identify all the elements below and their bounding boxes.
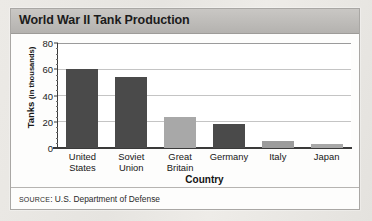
plot-area: 020406080 (58, 43, 351, 148)
page-title: World War II Tank Production (19, 13, 190, 27)
bar-slot (262, 43, 294, 148)
chart-panel: World War II Tank Production Tanks (in t… (10, 8, 360, 210)
x-axis-label-line: States (58, 162, 107, 173)
x-axis-label-line: Great (156, 151, 205, 162)
bar-germany[interactable] (213, 124, 245, 148)
bar-japan[interactable] (311, 144, 343, 148)
x-axis-label-line: Britain (156, 162, 205, 173)
source-note: SOURCE: U.S. Department of Defense (19, 194, 160, 204)
x-axis-label-japan: Japan (302, 151, 351, 162)
x-axis-label-line: Soviet (107, 151, 156, 162)
bar-slot (164, 43, 196, 148)
bar-soviet-union[interactable] (115, 77, 147, 148)
x-axis-label-line: Union (107, 162, 156, 173)
y-axis-title-unit: (in thousands) (27, 47, 36, 99)
y-tick-label-0: 0 (48, 143, 53, 154)
y-tick-label-40: 40 (42, 90, 53, 101)
x-axis-label-line: Japan (302, 151, 351, 162)
y-axis-title: Tanks (in thousands) (25, 33, 36, 143)
y-axis-title-main: Tanks (25, 102, 36, 129)
x-axis-label-great-britain: GreatBritain (156, 151, 205, 174)
x-axis-label-soviet-union: SovietUnion (107, 151, 156, 174)
chart-title-bar: World War II Tank Production (11, 9, 359, 34)
y-tick-label-20: 20 (42, 116, 53, 127)
bar-united-states[interactable] (66, 69, 98, 148)
chart-area: Tanks (in thousands) 020406080 UnitedSta… (11, 34, 361, 210)
x-axis-title: Country (58, 174, 351, 185)
x-axis-label-italy: Italy (253, 151, 302, 162)
source-text: U.S. Department of Defense (55, 194, 160, 204)
source-prefix: SOURCE (19, 196, 50, 203)
y-tick-label-60: 60 (42, 64, 53, 75)
bar-series (58, 43, 351, 148)
x-axis-label-germany: Germany (205, 151, 254, 162)
bar-italy[interactable] (262, 141, 294, 148)
x-axis-label-line: Italy (253, 151, 302, 162)
bar-slot (66, 43, 98, 148)
bar-great-britain[interactable] (164, 117, 196, 149)
x-axis-label-united-states: UnitedStates (58, 151, 107, 174)
x-axis-label-line: Germany (205, 151, 254, 162)
bar-slot (311, 43, 343, 148)
bar-slot (115, 43, 147, 148)
x-axis-label-line: United (58, 151, 107, 162)
source-divider (11, 187, 359, 188)
bar-slot (213, 43, 245, 148)
y-tick-label-80: 80 (42, 38, 53, 49)
